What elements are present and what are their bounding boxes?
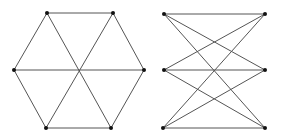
node-a — [45, 11, 49, 15]
node-e — [44, 126, 48, 130]
edge-e-f — [14, 70, 46, 128]
edge-b-c — [113, 13, 144, 70]
node-r1 — [263, 12, 267, 16]
k33-graph — [161, 12, 267, 130]
hexagon-graph — [12, 11, 146, 130]
node-r2 — [263, 68, 267, 72]
node-l3 — [161, 126, 165, 130]
node-f — [12, 68, 16, 72]
node-l2 — [162, 68, 166, 72]
node-r3 — [263, 126, 267, 130]
edge-c-d — [111, 70, 144, 128]
node-l1 — [162, 12, 166, 16]
node-d — [109, 126, 113, 130]
graph-diagram — [0, 0, 281, 137]
hexagon-edges — [14, 13, 144, 128]
k33-edges — [163, 14, 265, 128]
edge-f-a — [14, 13, 47, 70]
node-b — [111, 11, 115, 15]
node-c — [142, 68, 146, 72]
